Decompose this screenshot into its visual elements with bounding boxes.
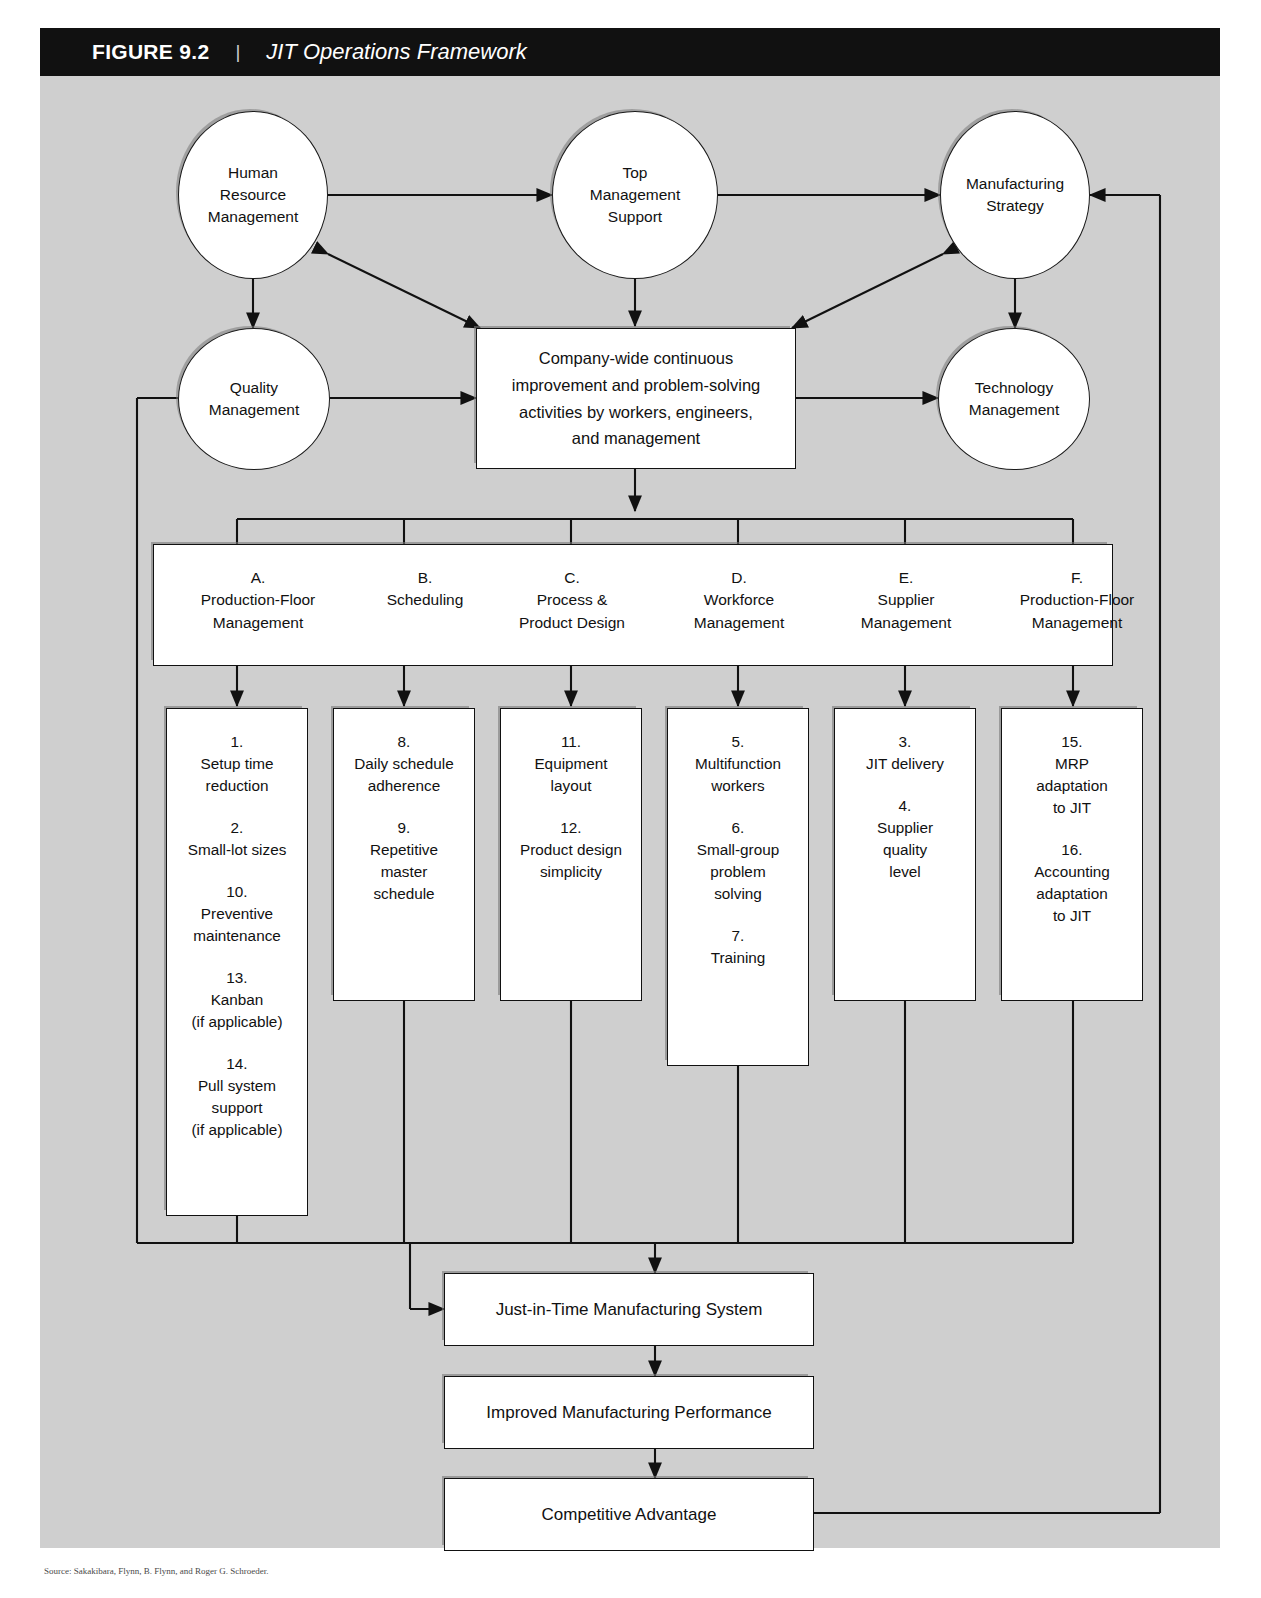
category-line-1: Production-Floor — [993, 589, 1161, 611]
category-line-1: Workforce — [659, 589, 819, 611]
column-item-number: 6. — [668, 817, 808, 839]
column-item-number: 1. — [167, 731, 307, 753]
node-competitive-advantage[interactable]: Competitive Advantage — [444, 1478, 814, 1551]
outcome-label: Improved Manufacturing Performance — [486, 1403, 771, 1423]
column-item-number: 14. — [167, 1053, 307, 1075]
figure-source-caption: Source: Sakakibara, Flynn, B. Flynn, and… — [44, 1566, 1144, 1576]
column-item-text: Preventivemaintenance — [167, 903, 307, 947]
column-box-f[interactable]: 15.MRPadaptationto JIT16.Accountingadapt… — [1001, 708, 1143, 1001]
column-box-b[interactable]: 8.Daily scheduleadherence9.Repetitivemas… — [333, 708, 475, 1001]
node-human-resource-management[interactable]: HumanResourceManagement — [178, 111, 328, 279]
column-item: 16.Accountingadaptationto JIT — [1002, 839, 1142, 927]
column-item-number: 5. — [668, 731, 808, 753]
column-item-number: 12. — [501, 817, 641, 839]
column-box-c[interactable]: 11.Equipmentlayout12.Product designsimpl… — [500, 708, 642, 1001]
category-line-2: Management — [659, 612, 819, 634]
column-item: 3.JIT delivery — [835, 731, 975, 775]
category-letter: C. — [492, 567, 652, 589]
node-label: HumanResourceManagement — [200, 162, 306, 228]
outcome-label: Competitive Advantage — [542, 1505, 717, 1525]
center-box-line-2: improvement and problem-solving — [512, 372, 761, 399]
category-letter: A. — [178, 567, 338, 589]
category-letter: F. — [993, 567, 1161, 589]
node-label: QualityManagement — [201, 377, 307, 421]
column-item: 7.Training — [668, 925, 808, 969]
column-item-text: Training — [668, 947, 808, 969]
category-line-2: Management — [826, 612, 986, 634]
category-letter: E. — [826, 567, 986, 589]
category-line-1: Supplier — [826, 589, 986, 611]
category-cell-f[interactable]: F. Production-Floor Management — [993, 567, 1161, 634]
column-item: 8.Daily scheduleadherence — [334, 731, 474, 797]
category-letter: D. — [659, 567, 819, 589]
column-item: 1.Setup timereduction — [167, 731, 307, 797]
node-technology-management[interactable]: TechnologyManagement — [938, 328, 1090, 470]
column-item: 14.Pull systemsupport(if applicable) — [167, 1053, 307, 1141]
column-item-number: 11. — [501, 731, 641, 753]
category-cell-b[interactable]: B. Scheduling — [345, 567, 505, 612]
category-line-1: Production-Floor — [178, 589, 338, 611]
category-letter: B. — [345, 567, 505, 589]
node-top-management-support[interactable]: TopManagementSupport — [552, 111, 718, 279]
column-item-text: Repetitivemasterschedule — [334, 839, 474, 905]
column-item-text: Multifunctionworkers — [668, 753, 808, 797]
column-item: 15.MRPadaptationto JIT — [1002, 731, 1142, 819]
center-box-line-4: and management — [572, 425, 700, 452]
category-line-1: Scheduling — [345, 589, 505, 611]
figure-page: FIGURE 9.2 | JIT Operations Framework — [0, 0, 1261, 1598]
column-item-number: 8. — [334, 731, 474, 753]
figure-separator: | — [235, 41, 240, 63]
column-item-text: Kanban(if applicable) — [167, 989, 307, 1033]
category-line-2: Management — [178, 612, 338, 634]
node-jit-manufacturing-system[interactable]: Just-in-Time Manufacturing System — [444, 1273, 814, 1346]
column-item-text: Small-lot sizes — [167, 839, 307, 861]
column-item: 11.Equipmentlayout — [501, 731, 641, 797]
column-box-e[interactable]: 3.JIT delivery4.Supplierqualitylevel — [834, 708, 976, 1001]
node-manufacturing-strategy[interactable]: ManufacturingStrategy — [940, 111, 1090, 279]
column-item: 9.Repetitivemasterschedule — [334, 817, 474, 905]
category-line-2: Management — [993, 612, 1161, 634]
node-label: ManufacturingStrategy — [958, 173, 1072, 217]
node-quality-management[interactable]: QualityManagement — [178, 328, 330, 470]
column-item-number: 2. — [167, 817, 307, 839]
column-item-number: 9. — [334, 817, 474, 839]
category-line-1: Process & — [492, 589, 652, 611]
column-item: 2.Small-lot sizes — [167, 817, 307, 861]
outcome-label: Just-in-Time Manufacturing System — [496, 1300, 763, 1320]
diagram-canvas: HumanResourceManagement TopManagementSup… — [40, 76, 1220, 1548]
category-cell-a[interactable]: A. Production-Floor Management — [178, 567, 338, 634]
column-item-number: 7. — [668, 925, 808, 947]
category-cell-c[interactable]: C. Process & Product Design — [492, 567, 652, 634]
category-cell-e[interactable]: E. Supplier Management — [826, 567, 986, 634]
column-item-text: MRPadaptationto JIT — [1002, 753, 1142, 819]
node-continuous-improvement[interactable]: Company-wide continuous improvement and … — [476, 328, 796, 469]
column-item: 6.Small-groupproblemsolving — [668, 817, 808, 905]
column-box-a[interactable]: 1.Setup timereduction2.Small-lot sizes10… — [166, 708, 308, 1216]
column-item: 12.Product designsimplicity — [501, 817, 641, 883]
column-item-text: Equipmentlayout — [501, 753, 641, 797]
column-item-text: Daily scheduleadherence — [334, 753, 474, 797]
column-item-number: 10. — [167, 881, 307, 903]
column-item: 5.Multifunctionworkers — [668, 731, 808, 797]
column-item-text: JIT delivery — [835, 753, 975, 775]
figure-number: FIGURE 9.2 — [92, 40, 209, 64]
figure-header-bar: FIGURE 9.2 | JIT Operations Framework — [40, 28, 1220, 76]
column-item: 4.Supplierqualitylevel — [835, 795, 975, 883]
column-item: 13.Kanban(if applicable) — [167, 967, 307, 1033]
column-item-text: Small-groupproblemsolving — [668, 839, 808, 905]
center-box-line-1: Company-wide continuous — [539, 345, 733, 372]
node-improved-manufacturing-performance[interactable]: Improved Manufacturing Performance — [444, 1376, 814, 1449]
category-bar: A. Production-Floor Management B. Schedu… — [153, 544, 1113, 666]
center-box-line-3: activities by workers, engineers, — [519, 399, 753, 426]
column-item-number: 4. — [835, 795, 975, 817]
column-item-text: Setup timereduction — [167, 753, 307, 797]
column-item: 10.Preventivemaintenance — [167, 881, 307, 947]
column-item-number: 13. — [167, 967, 307, 989]
node-label: TopManagementSupport — [582, 162, 688, 228]
column-item-text: Accountingadaptationto JIT — [1002, 861, 1142, 927]
column-box-d[interactable]: 5.Multifunctionworkers6.Small-groupprobl… — [667, 708, 809, 1066]
column-item-number: 3. — [835, 731, 975, 753]
column-item-text: Pull systemsupport(if applicable) — [167, 1075, 307, 1141]
category-cell-d[interactable]: D. Workforce Management — [659, 567, 819, 634]
node-label: TechnologyManagement — [961, 377, 1067, 421]
